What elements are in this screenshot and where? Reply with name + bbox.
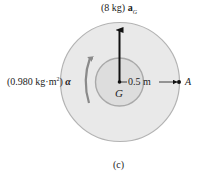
center-label: G xyxy=(115,88,123,99)
diagram-canvas xyxy=(0,0,202,177)
acceleration-subscript: G xyxy=(133,9,137,15)
force-label: (8 kg) aG xyxy=(101,3,137,13)
kinetic-diagram: (8 kg) aG (0.980 kg·m2) α G 0.5 m A (c) xyxy=(0,0,202,177)
center-point-g xyxy=(118,80,122,84)
moment-label: (0.980 kg·m2) α xyxy=(7,77,71,87)
figure-caption: (c) xyxy=(113,160,124,170)
distance-label: 0.5 m xyxy=(128,77,151,87)
inertia-value: (0.980 kg·m xyxy=(7,76,56,87)
mass-value: (8 kg) xyxy=(101,2,125,13)
alpha-symbol: α xyxy=(65,76,71,87)
point-a xyxy=(177,80,181,84)
point-a-label: A xyxy=(185,77,191,87)
inertia-close-paren: ) xyxy=(59,76,62,87)
